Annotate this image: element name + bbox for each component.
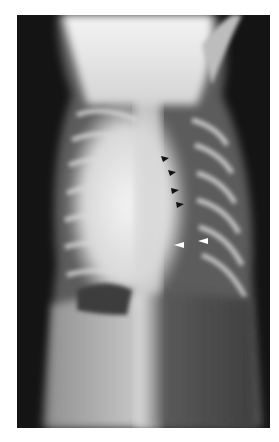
- radiograph-image: [17, 15, 270, 428]
- thorax-radiograph: [17, 15, 270, 428]
